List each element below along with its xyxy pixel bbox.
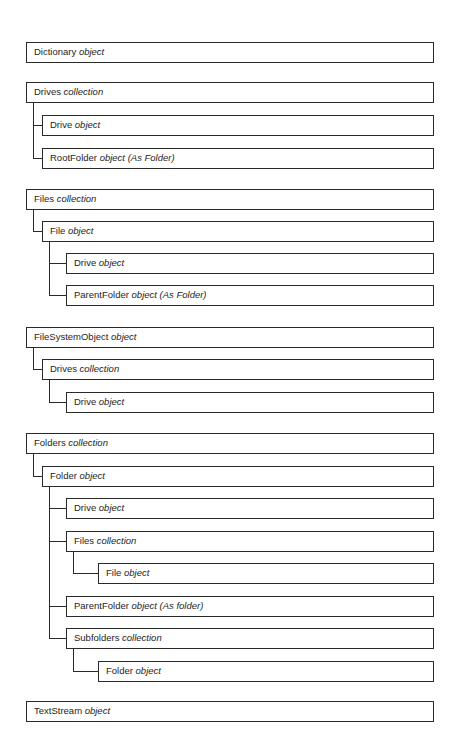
node-fso-drives: Drives collection <box>42 359 434 380</box>
node-folders-folder-drive: Drive object <box>66 498 434 519</box>
node-name: File <box>106 567 121 578</box>
node-files-file-drive: Drive object <box>66 253 434 274</box>
node-folders-folder-files: Files collection <box>66 531 434 552</box>
node-name: RootFolder <box>50 152 97 163</box>
node-folders-col: Folders collection <box>26 433 434 454</box>
node-kind: collection <box>122 632 162 643</box>
node-kind: object (As Folder) <box>100 152 175 163</box>
node-textstream: TextStream object <box>26 701 434 722</box>
node-name: Drive <box>74 257 96 268</box>
connector-line <box>33 454 34 477</box>
connector-branch <box>49 638 66 639</box>
node-kind: object <box>99 396 124 407</box>
node-kind: collection <box>80 363 120 374</box>
node-kind: object (As folder) <box>132 600 204 611</box>
node-name: Folders <box>34 437 66 448</box>
node-files-file-parentfolder: ParentFolder object (As Folder) <box>66 285 434 306</box>
node-name: Drives <box>50 363 77 374</box>
node-name: Files <box>34 193 54 204</box>
node-name: ParentFolder <box>74 289 129 300</box>
node-kind: object <box>75 119 100 130</box>
connector-branch <box>49 508 66 509</box>
object-model-diagram: Dictionary objectDrives collectionDrive … <box>0 0 460 754</box>
connector-line <box>33 210 34 232</box>
node-fso-drives-drive: Drive object <box>66 392 434 413</box>
node-kind: collection <box>68 437 108 448</box>
node-name: Subfolders <box>74 632 119 643</box>
node-kind: object <box>124 567 149 578</box>
node-kind: collection <box>97 535 137 546</box>
node-dictionary: Dictionary object <box>26 42 434 63</box>
node-kind: object <box>99 257 124 268</box>
node-name: Drive <box>74 396 96 407</box>
node-kind: object <box>79 46 104 57</box>
node-kind: object <box>111 331 136 342</box>
node-kind: object <box>85 705 110 716</box>
node-kind: object <box>68 225 93 236</box>
connector-branch <box>73 573 98 574</box>
node-files-file: File object <box>42 221 434 242</box>
node-name: Dictionary <box>34 46 76 57</box>
node-kind: object (As Folder) <box>132 289 207 300</box>
node-kind: object <box>99 502 124 513</box>
node-folders-folder: Folder object <box>42 466 434 487</box>
node-name: Folder <box>106 665 133 676</box>
node-folders-folder-subfolders-folder: Folder object <box>98 661 434 682</box>
connector-line <box>33 348 34 370</box>
node-name: File <box>50 225 65 236</box>
node-folders-folder-subfolders: Subfolders collection <box>66 628 434 649</box>
connector-branch <box>49 263 66 264</box>
connector-branch <box>49 295 66 296</box>
node-kind: collection <box>64 86 104 97</box>
node-drives-col: Drives collection <box>26 82 434 103</box>
connector-line <box>49 380 50 403</box>
node-fso: FileSystemObject object <box>26 327 434 348</box>
connector-line <box>49 487 50 639</box>
node-name: Files <box>74 535 94 546</box>
node-folders-folder-files-file: File object <box>98 563 434 584</box>
connector-branch <box>33 369 42 370</box>
node-name: Folder <box>50 470 77 481</box>
node-kind: object <box>80 470 105 481</box>
connector-branch <box>33 158 42 159</box>
connector-branch <box>49 402 66 403</box>
connector-branch <box>49 606 66 607</box>
node-kind: object <box>136 665 161 676</box>
node-name: FileSystemObject <box>34 331 108 342</box>
node-drives-drive: Drive object <box>42 115 434 136</box>
node-name: TextStream <box>34 705 82 716</box>
node-name: Drive <box>74 502 96 513</box>
node-name: Drive <box>50 119 72 130</box>
connector-branch <box>33 125 42 126</box>
connector-branch <box>33 476 42 477</box>
node-name: ParentFolder <box>74 600 129 611</box>
connector-branch <box>49 541 66 542</box>
connector-branch <box>33 231 42 232</box>
node-kind: collection <box>57 193 97 204</box>
connector-branch <box>73 671 98 672</box>
connector-line <box>73 649 74 672</box>
node-folders-folder-parentfolder: ParentFolder object (As folder) <box>66 596 434 617</box>
node-files-col: Files collection <box>26 189 434 210</box>
node-drives-rootfolder: RootFolder object (As Folder) <box>42 148 434 169</box>
connector-line <box>49 242 50 296</box>
connector-line <box>73 552 74 574</box>
connector-line <box>33 103 34 159</box>
node-name: Drives <box>34 86 61 97</box>
